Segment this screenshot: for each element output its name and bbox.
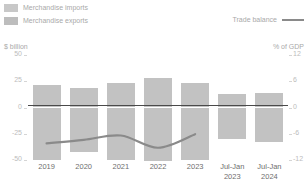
legend-item-imports: Merchandise imports: [4, 2, 88, 13]
left-tick-mark: [24, 81, 27, 82]
right-tick-mark: [289, 108, 292, 109]
exports-swatch-icon: [4, 17, 18, 25]
legend-item-trade-balance: Trade balance: [233, 16, 305, 24]
right-tick-label: -12: [293, 155, 308, 162]
legend-item-exports: Merchandise exports: [4, 15, 88, 26]
legend-imports-label: Merchandise imports: [23, 4, 88, 12]
left-tick-mark: [24, 160, 27, 161]
left-tick-label: -25: [2, 129, 22, 136]
right-tick-label: 0: [293, 103, 308, 110]
right-tick-label: 6: [293, 76, 308, 83]
legend-left: Merchandise imports Merchandise exports: [4, 2, 88, 28]
right-tick-label: 12: [293, 50, 308, 57]
left-tick-label: 0: [2, 103, 22, 110]
legend-balance-label: Trade balance: [233, 16, 278, 24]
left-tick-mark: [24, 134, 27, 135]
legend-exports-label: Merchandise exports: [23, 17, 88, 25]
line-sample-icon: [282, 19, 304, 21]
left-tick-mark: [24, 108, 27, 109]
right-tick-mark: [289, 134, 292, 135]
right-tick-mark: [289, 55, 292, 56]
right-tick-label: -6: [293, 129, 308, 136]
x-tick-label: Jul-Jan2024: [243, 162, 295, 182]
left-tick-label: 50: [2, 50, 22, 57]
trade-chart: Merchandise imports Merchandise exports …: [0, 0, 308, 190]
right-tick-mark: [289, 81, 292, 82]
left-axis-unit: $ billion: [4, 43, 28, 50]
x-axis-labels: 20192020202120222023Jul-Jan2023Jul-Jan20…: [28, 162, 288, 190]
plot-area: [28, 55, 288, 160]
left-tick-label: -50: [2, 155, 22, 162]
right-tick-mark: [289, 160, 292, 161]
right-axis-unit: % of GDP: [273, 43, 304, 50]
trade-balance-line: [28, 55, 288, 160]
trade-balance-path: [47, 134, 196, 148]
imports-swatch-icon: [4, 4, 18, 12]
left-tick-mark: [24, 55, 27, 56]
left-tick-label: 25: [2, 76, 22, 83]
